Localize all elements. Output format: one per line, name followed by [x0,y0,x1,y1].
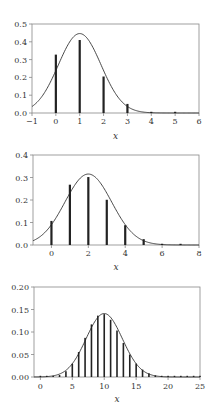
y-tick-label: 0.0 [15,241,28,250]
chart-panel-top: 0.00.10.20.30.40.5−10123456x [14,20,201,141]
probability-stem [103,314,105,377]
probability-stem [180,376,182,377]
y-tick-label: 0.2 [15,196,28,205]
probability-stem [174,376,176,377]
normal-curve [33,174,199,245]
probability-stem [167,376,169,377]
probability-stem [186,376,188,377]
x-tick-label: 3 [125,117,130,126]
x-tick-label: 0 [38,382,43,391]
y-tick-label: 0.10 [11,328,29,337]
probability-stem [55,55,57,113]
x-tick-label: 6 [196,117,201,126]
x-tick-label: 15 [131,382,141,391]
probability-stem [91,324,93,377]
probability-stem [65,371,67,377]
probability-stem [135,364,137,377]
y-tick-label: 0.00 [11,373,29,382]
x-tick-label: 25 [195,382,205,391]
y-tick-label: 0.3 [15,174,28,183]
figure: 0.00.10.20.30.40.5−10123456x 0.00.10.20.… [0,0,215,417]
y-tick-label: 0.05 [11,351,29,360]
x-axis-label: x [114,394,119,404]
probability-stem [72,364,74,377]
probability-stem [123,343,125,377]
x-tick-label: 4 [123,249,128,258]
probability-stem [155,375,157,377]
x-tick-label: 5 [173,117,178,126]
x-axis-label: x [113,131,118,141]
y-tick-label: 0.1 [15,219,28,228]
probability-stem [106,200,108,245]
probability-stem [78,352,80,377]
normal-curve [32,34,199,113]
probability-stem [148,373,150,377]
probability-stem [199,376,201,377]
probability-stem [50,221,52,245]
probability-stem [143,239,145,245]
x-tick-label: 0 [53,117,58,126]
probability-stem [129,355,131,377]
probability-stem [110,320,112,377]
probability-stem [102,77,104,113]
x-tick-label: −1 [26,117,38,126]
x-axis-label: x [113,262,118,272]
chart-panel-middle: 0.00.10.20.30.402468x [15,151,201,272]
x-tick-label: 2 [86,249,91,258]
x-tick-label: 5 [70,382,75,391]
y-tick-label: 0.1 [14,91,27,100]
probability-stem [142,370,144,377]
x-tick-label: 0 [49,249,54,258]
probability-stem [87,177,89,245]
probability-stem [116,331,118,377]
probability-stem [179,244,181,245]
x-tick-label: 2 [101,117,106,126]
x-tick-label: 20 [163,382,173,391]
probability-stem [79,40,81,113]
probability-stem [40,376,42,377]
probability-stem [174,112,176,113]
y-tick-label: 0.5 [14,20,27,29]
probability-stem [97,316,99,377]
y-tick-label: 0.20 [11,283,29,292]
x-tick-label: 10 [99,382,109,391]
y-tick-label: 0.3 [14,56,27,65]
probability-stem [150,112,152,113]
chart-panel-bottom: 0.000.050.100.150.200510152025x [11,283,205,404]
probability-stem [69,185,71,245]
probability-stem [161,376,163,377]
y-tick-label: 0.0 [14,109,27,118]
probability-stem [124,225,126,245]
x-tick-label: 6 [160,249,165,258]
probability-stem [52,376,54,377]
y-tick-label: 0.4 [14,38,27,47]
probability-stem [84,338,86,377]
probability-stem [161,244,163,245]
y-tick-label: 0.4 [15,151,28,160]
probability-stem [193,376,195,377]
plot-frame [33,155,199,245]
x-tick-label: 8 [196,249,201,258]
probability-stem [59,375,61,377]
x-tick-label: 4 [149,117,154,126]
y-tick-label: 0.2 [14,73,27,82]
x-tick-label: 1 [77,117,82,126]
y-tick-label: 0.15 [11,306,29,315]
probability-stem [46,376,48,377]
probability-stem [126,104,128,113]
